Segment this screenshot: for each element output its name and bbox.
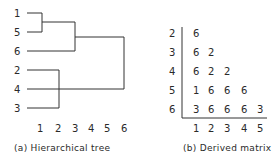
matrix-caption: (b) Derived matrix bbox=[183, 143, 272, 153]
leaf-label: 3 bbox=[14, 103, 20, 114]
matrix-cell: 3 bbox=[257, 104, 263, 115]
matrix-col-labels: 1 2 3 4 5 bbox=[193, 123, 263, 134]
row-label: 6 bbox=[169, 104, 175, 115]
axis-tick: 6 bbox=[121, 123, 127, 134]
row-label: 2 bbox=[169, 28, 175, 39]
axis-tick: 3 bbox=[72, 123, 78, 134]
matrix-cell: 6 bbox=[193, 28, 199, 39]
col-label: 4 bbox=[241, 123, 247, 134]
matrix-cell: 3 bbox=[193, 104, 199, 115]
axis-tick: 1 bbox=[37, 123, 43, 134]
row-label: 3 bbox=[169, 47, 175, 58]
merge-root bbox=[75, 37, 124, 89]
leaf-label: 4 bbox=[14, 84, 20, 95]
axis-tick: 5 bbox=[104, 123, 110, 134]
merge-156 bbox=[27, 22, 75, 51]
row-label: 4 bbox=[169, 66, 175, 77]
matrix-cell: 2 bbox=[208, 47, 214, 58]
matrix-cell: 6 bbox=[193, 47, 199, 58]
leaf-label: 5 bbox=[14, 27, 20, 38]
matrix-cells: 6 6 2 6 2 2 1 6 6 6 3 6 6 6 3 bbox=[193, 28, 263, 115]
tree-caption: (a) Hierarchical tree bbox=[14, 143, 110, 153]
matrix-cell: 6 bbox=[241, 104, 247, 115]
matrix-cell: 6 bbox=[241, 85, 247, 96]
col-label: 1 bbox=[193, 123, 199, 134]
matrix-cell: 2 bbox=[208, 66, 214, 77]
col-label: 5 bbox=[257, 123, 263, 134]
leaf-label: 1 bbox=[14, 8, 20, 19]
matrix-cell: 6 bbox=[208, 104, 214, 115]
merge-1-5 bbox=[27, 13, 42, 32]
dendrogram bbox=[27, 13, 124, 108]
matrix-row-labels: 2 3 4 5 6 bbox=[169, 28, 175, 115]
tree-axis: 1 2 3 4 5 6 bbox=[37, 123, 127, 134]
leaf-label: 6 bbox=[14, 46, 20, 57]
col-label: 2 bbox=[208, 123, 214, 134]
matrix-cell: 6 bbox=[208, 85, 214, 96]
matrix-cell: 2 bbox=[224, 66, 230, 77]
axis-tick: 2 bbox=[55, 123, 61, 134]
matrix-cell: 6 bbox=[193, 66, 199, 77]
col-label: 3 bbox=[224, 123, 230, 134]
matrix-cell: 6 bbox=[224, 85, 230, 96]
matrix-cell: 6 bbox=[224, 104, 230, 115]
row-label: 5 bbox=[169, 85, 175, 96]
axis-tick: 4 bbox=[88, 123, 94, 134]
matrix-cell: 1 bbox=[193, 85, 199, 96]
figure: 1 5 6 2 4 3 1 2 3 4 5 6 (a) Hierarchical… bbox=[0, 0, 278, 160]
tree-leaf-labels: 1 5 6 2 4 3 bbox=[14, 8, 20, 114]
leaf-label: 2 bbox=[14, 65, 20, 76]
